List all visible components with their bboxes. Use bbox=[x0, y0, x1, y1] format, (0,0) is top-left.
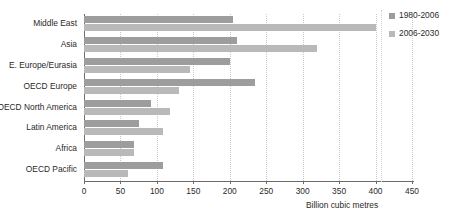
tick-mark bbox=[266, 181, 267, 184]
tick-mark bbox=[193, 181, 194, 184]
tick-mark bbox=[376, 181, 377, 184]
category-label: Africa bbox=[0, 144, 77, 153]
tick-mark bbox=[84, 181, 85, 184]
bar bbox=[84, 45, 317, 52]
legend-item[interactable]: 2006-2030 bbox=[389, 29, 449, 38]
legend-label: 1980-2006 bbox=[399, 11, 439, 20]
bar bbox=[84, 170, 128, 177]
bar bbox=[84, 66, 190, 73]
bar bbox=[84, 120, 139, 127]
chart-title bbox=[78, 0, 358, 1]
tick-mark bbox=[157, 181, 158, 184]
x-tick-label: 100 bbox=[150, 186, 164, 196]
tick-mark bbox=[303, 181, 304, 184]
x-tick-label: 300 bbox=[296, 186, 310, 196]
x-tick-label: 350 bbox=[332, 186, 346, 196]
plot-area bbox=[84, 14, 412, 181]
x-tick-label: 400 bbox=[369, 186, 383, 196]
legend-separator bbox=[381, 10, 383, 182]
category-label: E. Europe/Eurasia bbox=[0, 61, 77, 70]
x-tick-label: 150 bbox=[186, 186, 200, 196]
category-label: Asia bbox=[0, 40, 77, 49]
bar bbox=[84, 162, 163, 169]
category-label: OECD North America bbox=[0, 103, 77, 112]
bar-group bbox=[84, 37, 412, 58]
bar bbox=[84, 79, 255, 86]
x-axis-title: Billion cubic metres bbox=[306, 200, 378, 210]
legend-swatch-icon bbox=[389, 31, 395, 37]
bar-group bbox=[84, 100, 412, 121]
tick-mark bbox=[412, 181, 413, 184]
x-tick-label: 450 bbox=[405, 186, 419, 196]
legend-swatch-icon bbox=[389, 13, 395, 19]
bar-chart: Middle EastAsiaE. Europe/EurasiaOECD Eur… bbox=[0, 0, 450, 217]
bar bbox=[84, 87, 179, 94]
bar bbox=[84, 149, 134, 156]
category-label: Middle East bbox=[0, 19, 77, 28]
bar-group bbox=[84, 120, 412, 141]
bar bbox=[84, 58, 230, 65]
category-label: OECD Europe bbox=[0, 82, 77, 91]
bar-group bbox=[84, 162, 412, 183]
chart-legend: 1980-20062006-2030 bbox=[389, 11, 449, 47]
bar bbox=[84, 16, 233, 23]
x-axis-tick-labels: 050100150200250300350400450 bbox=[0, 186, 450, 198]
bar-group bbox=[84, 141, 412, 162]
x-tick-label: 200 bbox=[223, 186, 237, 196]
bar bbox=[84, 24, 376, 31]
bar bbox=[84, 128, 163, 135]
bar-group bbox=[84, 16, 412, 37]
bar bbox=[84, 37, 237, 44]
bar bbox=[84, 141, 134, 148]
x-tick-label: 0 bbox=[82, 186, 87, 196]
legend-item[interactable]: 1980-2006 bbox=[389, 11, 449, 20]
tick-mark bbox=[120, 181, 121, 184]
category-axis: Middle EastAsiaE. Europe/EurasiaOECD Eur… bbox=[0, 14, 81, 181]
category-label: Latin America bbox=[0, 123, 77, 132]
tick-mark bbox=[339, 181, 340, 184]
x-tick-label: 50 bbox=[116, 186, 125, 196]
category-label: OECD Pacific bbox=[0, 165, 77, 174]
x-tick-label: 250 bbox=[259, 186, 273, 196]
bar-group bbox=[84, 79, 412, 100]
legend-label: 2006-2030 bbox=[399, 29, 439, 38]
tick-mark bbox=[230, 181, 231, 184]
bar bbox=[84, 100, 151, 107]
bar bbox=[84, 108, 170, 115]
bar-group bbox=[84, 58, 412, 79]
